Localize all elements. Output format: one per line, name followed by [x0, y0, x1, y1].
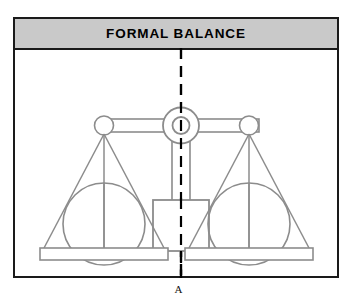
right-beam-knob-icon	[240, 116, 259, 135]
figure-frame: FORMAL BALANCE	[13, 17, 339, 278]
left-pan-group	[40, 134, 168, 265]
right-pan-base	[185, 248, 313, 260]
figure-body	[15, 48, 337, 278]
figure-header-bar: FORMAL BALANCE	[15, 19, 337, 50]
left-beam-knob-icon	[95, 116, 114, 135]
figure-root: FORMAL BALANCE	[0, 0, 351, 302]
caption-text: A	[175, 283, 183, 295]
figure-caption: A	[0, 283, 351, 295]
balance-scale-diagram	[15, 48, 337, 278]
left-pan-base	[40, 248, 168, 260]
figure-title: FORMAL BALANCE	[106, 27, 246, 41]
